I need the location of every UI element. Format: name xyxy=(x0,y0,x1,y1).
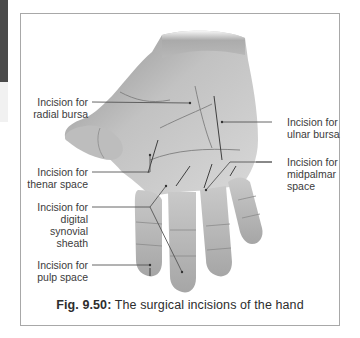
label-ulnar-bursa: Incision for ulnar bursa xyxy=(287,116,341,140)
label-thenar-space: Incision for thenar space xyxy=(20,166,88,190)
middle-finger xyxy=(168,192,196,292)
label-line: Incision for xyxy=(287,116,341,128)
label-line: digital synovial xyxy=(20,213,88,237)
little-finger xyxy=(228,178,263,245)
label-line: radial bursa xyxy=(20,108,88,120)
label-pulp-space: Incision for pulp space xyxy=(20,259,88,283)
label-line: Incision for xyxy=(20,201,88,213)
label-radial-bursa: Incision for radial bursa xyxy=(20,96,88,120)
label-line: Incision for xyxy=(20,166,88,178)
ring-finger xyxy=(200,186,232,276)
label-line: space xyxy=(287,180,341,192)
label-line: Incision for xyxy=(20,96,88,108)
label-midpalmar-space: Incision for midpalmar space xyxy=(287,156,341,192)
label-line: Incision for xyxy=(20,259,88,271)
index-finger xyxy=(135,190,162,276)
label-line: pulp space xyxy=(20,271,88,283)
label-line: thenar space xyxy=(20,178,88,190)
label-line: sheath xyxy=(20,237,88,249)
palm-shape xyxy=(65,31,258,196)
label-line: midpalmar xyxy=(287,168,341,180)
figure-number: Fig. 9.50: xyxy=(56,298,111,312)
figure-caption-text: The surgical incisions of the hand xyxy=(115,298,304,312)
label-line: Incision for xyxy=(287,156,341,168)
label-line: ulnar bursa xyxy=(287,128,341,140)
figure-caption: Fig. 9.50: The surgical incisions of the… xyxy=(0,298,360,312)
label-digital-synovial-sheath: Incision for digital synovial sheath xyxy=(20,201,88,249)
